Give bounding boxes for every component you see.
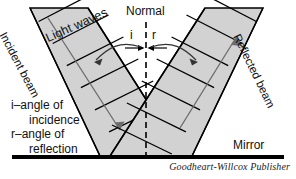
angle-r-label: r bbox=[152, 29, 156, 42]
mirror-label: Mirror bbox=[233, 139, 264, 152]
reflection-diagram-figure: Normal i r Incident beam Light waves Ref… bbox=[0, 0, 296, 179]
legend-line-incidence: incidence bbox=[11, 113, 80, 128]
angle-definitions-legend: i–angle of incidence r–angle of reflecti… bbox=[11, 98, 80, 157]
angle-i-label: i bbox=[130, 29, 133, 42]
legend-line-i-angle-of: i–angle of bbox=[11, 98, 80, 113]
publisher-credit: Goodheart-Willcox Publisher bbox=[169, 161, 290, 172]
legend-line-r-angle-of: r–angle of bbox=[11, 127, 80, 142]
normal-label: Normal bbox=[126, 5, 165, 18]
legend-line-reflection: reflection bbox=[11, 142, 80, 157]
